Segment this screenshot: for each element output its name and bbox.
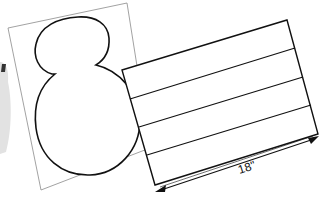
arrowhead-left-icon xyxy=(155,185,166,192)
craft-template-diagram: 18" xyxy=(0,0,321,198)
striped-panel xyxy=(122,20,318,185)
ghost-shape-left xyxy=(0,62,11,154)
dimension-label: 18" xyxy=(236,158,257,177)
